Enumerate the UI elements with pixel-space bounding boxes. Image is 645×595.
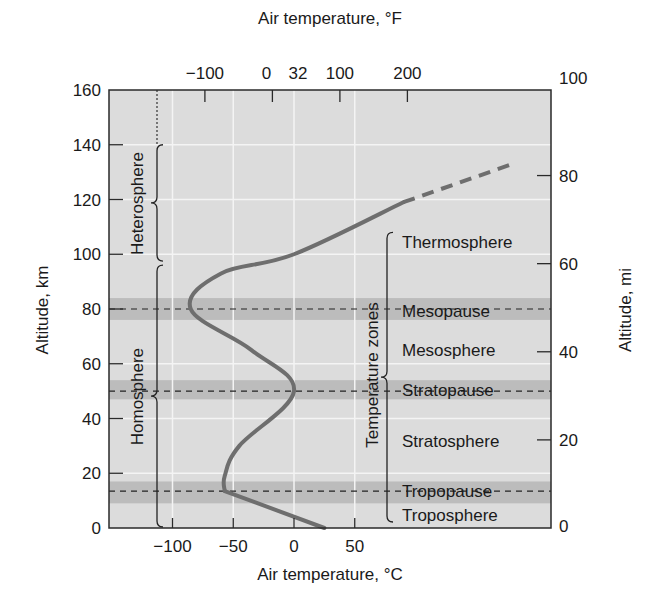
y-tick-label: 100 <box>73 245 101 264</box>
thermosphere-label: Thermosphere <box>402 233 513 252</box>
x-tick-label: −50 <box>219 537 248 556</box>
x2-tick-label: −100 <box>186 64 224 83</box>
x-tick-label: 50 <box>345 537 364 556</box>
y-tick-label: 120 <box>73 191 101 210</box>
x2-tick-label: 100 <box>326 64 354 83</box>
right-axis-title: Altitude, mi <box>616 268 635 352</box>
x2-tick-label: 32 <box>289 64 308 83</box>
y-tick-label: 160 <box>73 81 101 100</box>
mesopause-label: Mesopause <box>402 302 490 321</box>
stratosphere-label: Stratosphere <box>402 432 499 451</box>
tropopause-label: Tropopause <box>402 482 492 501</box>
mesosphere-label: Mesosphere <box>402 341 496 360</box>
top-axis-title: Air temperature, °F <box>258 9 402 28</box>
y2-tick-label: 40 <box>559 343 578 362</box>
y-tick-label: 80 <box>82 300 101 319</box>
bottom-axis-title: Air temperature, °C <box>257 565 403 584</box>
y2-tick-label: 0 <box>559 517 568 536</box>
y-tick-label: 0 <box>92 519 101 538</box>
y-tick-label: 140 <box>73 136 101 155</box>
temperature-zones-label: Temperature zones <box>363 302 382 448</box>
x-tick-label: −100 <box>153 537 191 556</box>
left-axis-title: Altitude, km <box>33 266 52 355</box>
chart-canvas: HeterosphereHomosphereThermosphereMesopa… <box>0 0 645 595</box>
stratopause-label: Stratopause <box>402 381 494 400</box>
atmosphere-temperature-chart: HeterosphereHomosphereThermosphereMesopa… <box>0 0 645 595</box>
troposphere-label: Troposphere <box>402 506 498 525</box>
y2-tick-label: 80 <box>559 167 578 186</box>
x2-tick-label: 200 <box>393 64 421 83</box>
y-tick-label: 40 <box>82 410 101 429</box>
heterosphere-label: Heterosphere <box>128 152 147 255</box>
y-tick-label: 60 <box>82 355 101 374</box>
y2-tick-label: 60 <box>559 255 578 274</box>
x2-tick-label: 0 <box>262 64 271 83</box>
y-tick-label: 20 <box>82 464 101 483</box>
homosphere-label: Homosphere <box>128 348 147 445</box>
x-tick-label: 0 <box>289 537 298 556</box>
y2-tick-label: 100 <box>559 69 587 88</box>
y2-tick-label: 20 <box>559 431 578 450</box>
